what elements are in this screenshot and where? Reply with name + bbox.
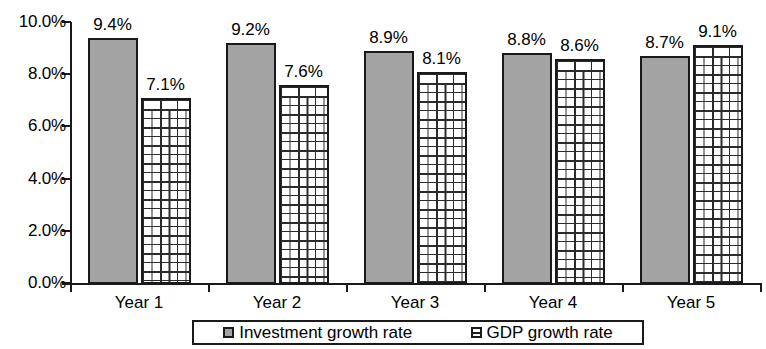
x-axis-tick-label: Year 2 [208,293,346,313]
bar-investment-growth-rate-5 [640,56,690,284]
bar-value-label-investment-growth-rate-1: 9.4% [78,16,148,34]
bar-value-label-investment-growth-rate-3: 8.9% [354,29,424,47]
x-axis-tick [208,284,210,292]
y-axis-tick-label: 2.0% [6,222,66,239]
x-axis-tick-label: Year 5 [622,293,760,313]
bar-value-label-investment-growth-rate-2: 9.2% [216,21,286,39]
x-axis-tick-label: Year 1 [70,293,208,313]
legend-entry-gdp-growth-rate: GDP growth rate [471,324,613,342]
bar-value-label-gdp-growth-rate-3: 8.1% [407,50,477,68]
bar-gdp-growth-rate-4 [555,59,605,284]
y-axis-tick-label: 0.0% [6,274,66,291]
bar-investment-growth-rate-1 [88,38,138,284]
legend-swatch-icon-gdp-growth-rate [471,327,482,338]
bar-chart: 0.0%2.0%4.0%6.0%8.0%10.0% Year 1Year 2Ye… [0,0,766,349]
legend-label-gdp-growth-rate: GDP growth rate [487,324,613,342]
bar-value-label-gdp-growth-rate-5: 9.1% [683,23,753,41]
x-axis-tick-label: Year 4 [484,293,622,313]
x-axis-tick [484,284,486,292]
legend-entry-investment-growth-rate: Investment growth rate [223,324,412,342]
x-axis-tick [70,284,72,292]
chart-legend: Investment growth rate GDP growth rate [192,320,644,345]
bar-gdp-growth-rate-1 [141,98,191,284]
bar-gdp-growth-rate-5 [693,45,743,284]
legend-swatch-icon-investment-growth-rate [223,327,234,338]
y-axis-tick-label: 6.0% [6,117,66,134]
x-axis-tick [346,284,348,292]
y-axis-tick-label: 10.0% [6,13,66,30]
x-axis-tick-label: Year 3 [346,293,484,313]
x-axis-tick [622,284,624,292]
x-axis-tick [760,284,762,292]
bar-gdp-growth-rate-3 [417,72,467,284]
bar-value-label-gdp-growth-rate-2: 7.6% [269,63,339,81]
bar-investment-growth-rate-3 [364,51,414,284]
y-axis-tick-label: 8.0% [6,65,66,82]
legend-label-investment-growth-rate: Investment growth rate [239,324,412,342]
y-axis-tick-label: 4.0% [6,170,66,187]
bar-value-label-gdp-growth-rate-1: 7.1% [131,76,201,94]
bar-gdp-growth-rate-2 [279,85,329,284]
bar-investment-growth-rate-4 [502,53,552,284]
bar-value-label-gdp-growth-rate-4: 8.6% [545,37,615,55]
y-axis-line [70,22,72,284]
